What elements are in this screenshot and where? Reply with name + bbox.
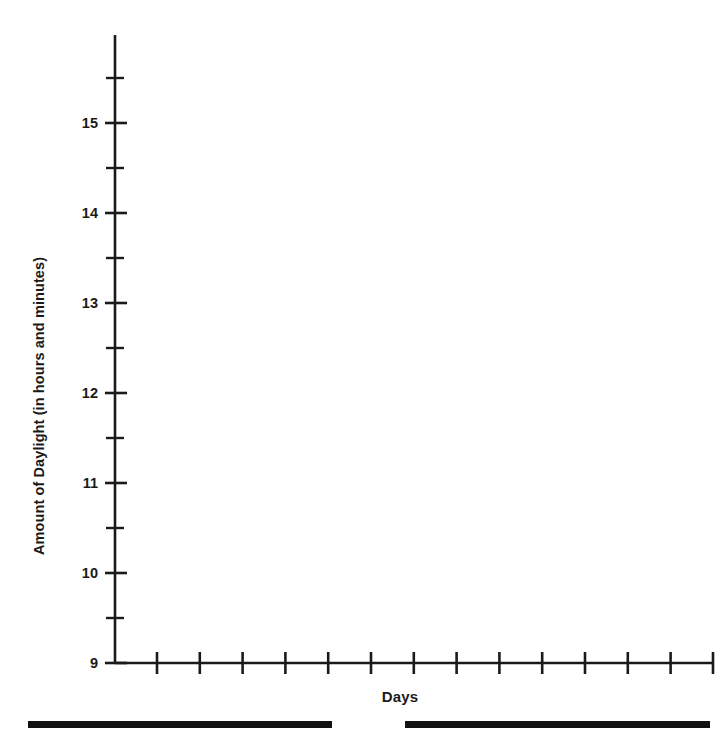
footer-rule-right — [405, 721, 710, 728]
chart-axes-svg — [0, 0, 728, 739]
y-tick-label-10: 10 — [58, 566, 98, 581]
y-tick-label-11: 11 — [58, 476, 98, 491]
plot-area — [116, 36, 713, 662]
blank-daylight-graph: 15 14 13 12 11 10 9 Amount of Daylight (… — [0, 0, 728, 739]
y-tick-label-9: 9 — [58, 656, 98, 671]
y-tick-label-14: 14 — [58, 206, 98, 221]
y-tick-label-13: 13 — [58, 296, 98, 311]
footer-rule-left — [28, 721, 332, 728]
y-tick-label-15: 15 — [58, 116, 98, 131]
y-axis-title: Amount of Daylight (in hours and minutes… — [24, 155, 54, 555]
x-axis-title: Days — [340, 688, 460, 705]
y-tick-label-12: 12 — [58, 386, 98, 401]
